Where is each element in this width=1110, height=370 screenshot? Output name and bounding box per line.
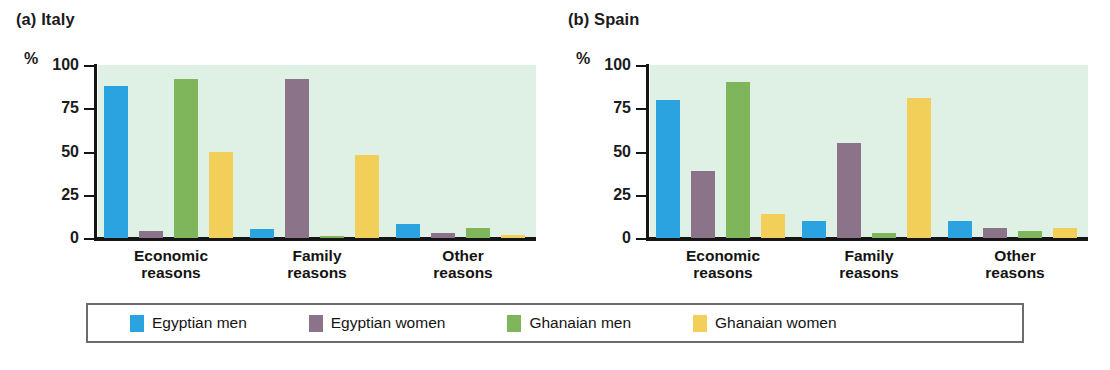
y-tick-spain-75: 75: [636, 108, 646, 110]
bar-groups-spain: EconomicreasonsFamilyreasonsOtherreasons: [650, 65, 1088, 238]
x-axis-category-label-line: Economic: [98, 247, 244, 264]
x-axis-category-label-line: reasons: [244, 264, 390, 281]
legend-label: Ghanaian men: [529, 314, 631, 332]
legend-label: Ghanaian women: [715, 314, 837, 332]
y-tick-label-spain-25: 25: [613, 185, 631, 203]
bar: [656, 100, 680, 238]
bar: [948, 221, 972, 238]
x-axis-category-label-line: Economic: [650, 247, 796, 264]
x-axis-category-label-line: reasons: [98, 264, 244, 281]
bars: [244, 65, 390, 238]
y-tick-spain-100: 100: [636, 65, 646, 67]
legend-item[interactable]: Egyptian women: [309, 314, 446, 332]
x-axis-category-label-line: reasons: [650, 264, 796, 281]
y-tick-label-italy-50: 50: [61, 142, 79, 160]
y-tick-label-italy-75: 75: [61, 99, 79, 117]
legend-item[interactable]: Ghanaian men: [507, 314, 631, 332]
x-axis-category-label: Economicreasons: [650, 247, 796, 282]
bar: [907, 98, 931, 238]
bar: [691, 171, 715, 238]
x-axis-category-label: Otherreasons: [942, 247, 1088, 282]
legend-item[interactable]: Ghanaian women: [693, 314, 837, 332]
y-tick-label-spain-50: 50: [613, 142, 631, 160]
chart-legend: Egyptian menEgyptian womenGhanaian menGh…: [86, 303, 1024, 343]
bar: [209, 152, 233, 239]
bar-group: Otherreasons: [390, 65, 536, 238]
panel-spain: (b) Spain % 1007550250 EconomicreasonsFa…: [560, 0, 1100, 292]
bar-group: Familyreasons: [244, 65, 390, 238]
bar: [320, 236, 344, 238]
bar: [872, 233, 896, 238]
y-tick-label-spain-0: 0: [622, 229, 631, 247]
x-axis-category-label-line: reasons: [796, 264, 942, 281]
bar: [174, 79, 198, 238]
y-axis-unit-label-italy: %: [24, 50, 38, 68]
y-tick-label-italy-0: 0: [70, 229, 79, 247]
bar-group: Familyreasons: [796, 65, 942, 238]
bar-group: Economicreasons: [650, 65, 796, 238]
bar: [1018, 231, 1042, 238]
y-tick-label-italy-100: 100: [52, 56, 79, 74]
x-axis-category-label-line: reasons: [942, 264, 1088, 281]
y-tick-label-spain-100: 100: [604, 56, 631, 74]
x-axis-category-label-line: Other: [942, 247, 1088, 264]
y-axis-line-italy: [94, 64, 97, 238]
bar: [355, 155, 379, 238]
bar: [761, 214, 785, 238]
y-tick-label-italy-25: 25: [61, 185, 79, 203]
x-axis-category-label-line: reasons: [390, 264, 536, 281]
y-tick-label-spain-75: 75: [613, 99, 631, 117]
bars: [98, 65, 244, 238]
x-axis-category-label-line: Family: [796, 247, 942, 264]
bars: [942, 65, 1088, 238]
bar: [431, 233, 455, 238]
x-axis-category-label: Familyreasons: [796, 247, 942, 282]
y-tick-spain-50: 50: [636, 152, 646, 154]
bar: [250, 229, 274, 238]
bar: [104, 86, 128, 238]
x-axis-category-label: Familyreasons: [244, 247, 390, 282]
bar: [983, 228, 1007, 238]
x-axis-category-label-line: Family: [244, 247, 390, 264]
legend-swatch-icon: [309, 315, 323, 332]
legend-label: Egyptian women: [331, 314, 446, 332]
bar: [139, 231, 163, 238]
bar: [466, 228, 490, 238]
y-axis-unit-label-spain: %: [576, 50, 590, 68]
bar: [396, 224, 420, 238]
bar-groups-italy: EconomicreasonsFamilyreasonsOtherreasons: [98, 65, 536, 238]
plot-wrap-spain: 1007550250 EconomicreasonsFamilyreasonsO…: [644, 56, 1088, 238]
x-axis-category-label-line: Other: [390, 247, 536, 264]
bar: [501, 235, 525, 238]
y-tick-italy-100: 100: [84, 65, 94, 67]
bars: [650, 65, 796, 238]
chart-figure: (a) Italy % 1007550250 EconomicreasonsFa…: [0, 0, 1110, 370]
y-tick-spain-0: 0: [636, 238, 646, 240]
legend-item[interactable]: Egyptian men: [130, 314, 247, 332]
bar: [837, 143, 861, 238]
y-axis-line-spain: [646, 64, 649, 238]
bar: [726, 82, 750, 238]
bar: [802, 221, 826, 238]
y-tick-italy-50: 50: [84, 152, 94, 154]
panel-title-spain: (b) Spain: [568, 10, 639, 29]
legend-label: Egyptian men: [152, 314, 247, 332]
y-tick-spain-25: 25: [636, 195, 646, 197]
panel-italy: (a) Italy % 1007550250 EconomicreasonsFa…: [8, 0, 548, 292]
legend-swatch-icon: [693, 315, 707, 332]
bar-group: Economicreasons: [98, 65, 244, 238]
bar: [285, 79, 309, 238]
legend-swatch-icon: [507, 315, 521, 332]
y-tick-italy-75: 75: [84, 108, 94, 110]
y-tick-italy-0: 0: [84, 238, 94, 240]
bar-group: Otherreasons: [942, 65, 1088, 238]
bar: [1053, 228, 1077, 238]
legend-swatch-icon: [130, 315, 144, 332]
y-tick-italy-25: 25: [84, 195, 94, 197]
bars: [796, 65, 942, 238]
x-axis-category-label: Economicreasons: [98, 247, 244, 282]
plot-wrap-italy: 1007550250 EconomicreasonsFamilyreasonsO…: [92, 56, 536, 238]
panel-title-italy: (a) Italy: [16, 10, 75, 29]
bars: [390, 65, 536, 238]
x-axis-category-label: Otherreasons: [390, 247, 536, 282]
